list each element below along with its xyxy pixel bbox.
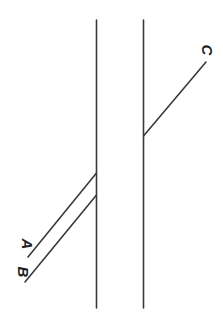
ray-b-label: B [15,267,32,278]
ray-c-line [144,62,207,136]
diagram-svg: A B C [0,0,223,319]
ray-a-line [28,173,97,257]
diagram-canvas: A B C [0,0,223,319]
ray-a-label: A [19,238,36,250]
ray-c-label: C [199,45,216,57]
